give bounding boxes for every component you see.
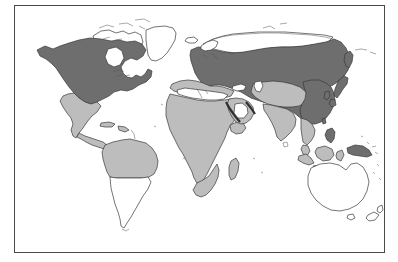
feature-taiwan <box>322 118 326 124</box>
world-map-svg: .dk { fill: #6e6e6e; stroke: #3a3a3a; st… <box>15 6 384 252</box>
map-frame-border: .dk { fill: #6e6e6e; stroke: #3a3a3a; st… <box>14 5 385 253</box>
map-figure: .dk { fill: #6e6e6e; stroke: #3a3a3a; st… <box>0 0 398 262</box>
